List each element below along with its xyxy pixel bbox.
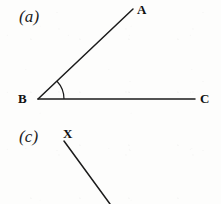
part-label-a: (a) — [19, 8, 39, 25]
ray-from-x — [64, 141, 110, 204]
point-label-x: X — [63, 127, 72, 140]
angle-arc-icon — [57, 81, 64, 99]
angle-abc-group — [38, 9, 195, 99]
figure-page: (a) (c) A B C X — [0, 0, 221, 204]
point-label-c: C — [200, 92, 209, 105]
geometry-figure — [0, 0, 221, 204]
part-label-c: (c) — [19, 128, 38, 145]
point-label-a: A — [137, 3, 146, 16]
point-label-b: B — [18, 92, 27, 105]
ray-x-group — [64, 141, 110, 204]
ray-b-to-a — [38, 9, 133, 99]
